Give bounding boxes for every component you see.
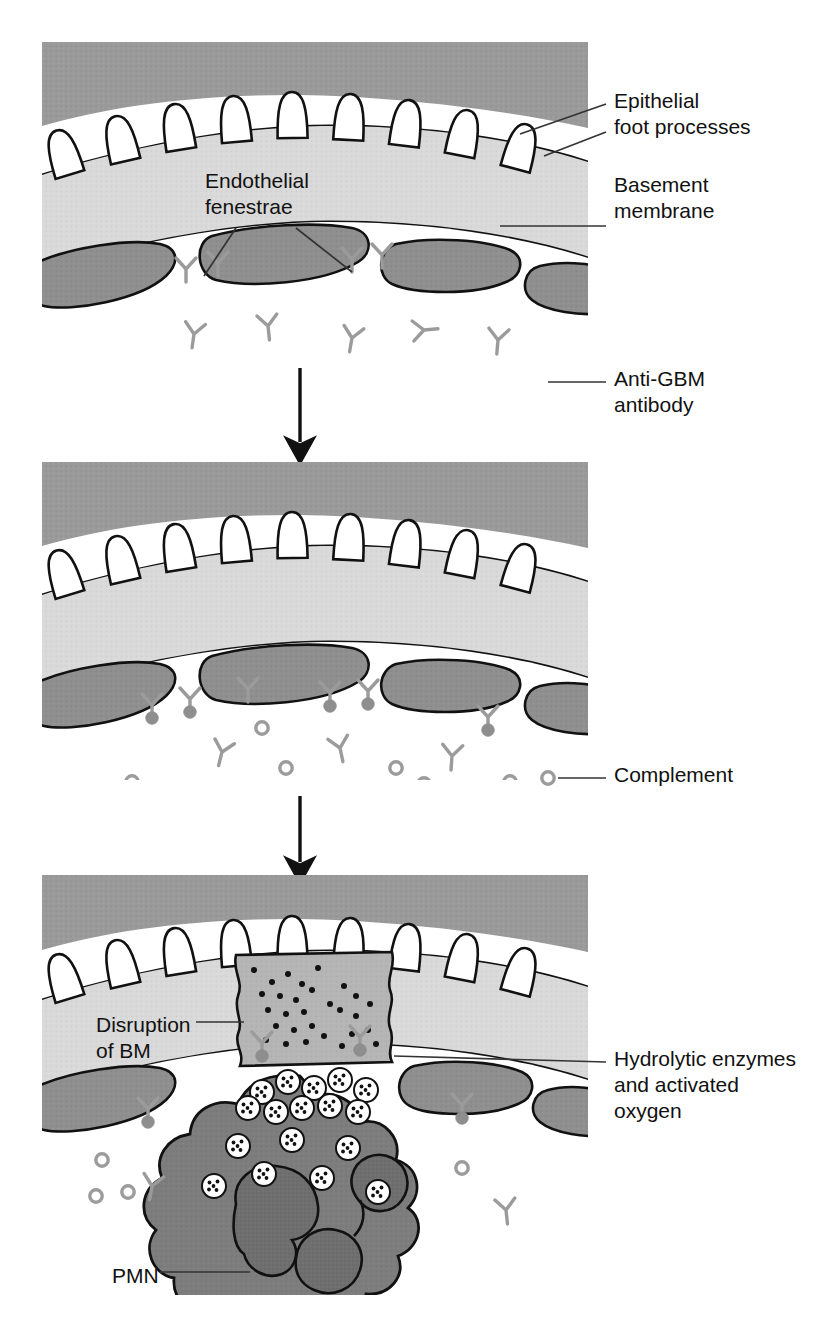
label-line: membrane [614, 199, 714, 222]
label-basement-membrane: Basementmembrane [614, 172, 714, 224]
label-line: Complement [614, 763, 733, 786]
disruption-of-bm-region [235, 952, 393, 1066]
label-line: Endothelial [205, 169, 309, 192]
label-complement: Complement [614, 762, 733, 788]
panel-1 [28, 42, 614, 391]
label-line: Hydrolytic enzymes [614, 1047, 796, 1070]
label-line: and activated [614, 1073, 739, 1096]
label-disruption-of-bm: Disruptionof BM [96, 1012, 191, 1064]
label-line: of BM [96, 1039, 151, 1062]
label-line: antibody [614, 393, 693, 416]
label-pmn: PMN [112, 1263, 159, 1289]
label-line: Epithelial [614, 89, 699, 112]
label-hydrolytic-enzymes: Hydrolytic enzymesand activatedoxygen [614, 1046, 796, 1124]
label-anti-gbm-antibody: Anti-GBMantibody [614, 366, 705, 418]
label-line: Basement [614, 173, 709, 196]
label-line: Anti-GBM [614, 367, 705, 390]
label-line: oxygen [614, 1099, 682, 1122]
label-epithelial-foot-processes: Epithelialfoot processes [614, 88, 751, 140]
label-line: foot processes [614, 115, 751, 138]
label-line: PMN [112, 1264, 159, 1287]
label-line: fenestrae [205, 195, 293, 218]
complement-p2-edge [542, 772, 554, 784]
label-line: Disruption [96, 1013, 191, 1036]
panel-2 [28, 462, 614, 822]
label-endothelial-fenestrae: Endothelialfenestrae [205, 168, 309, 220]
